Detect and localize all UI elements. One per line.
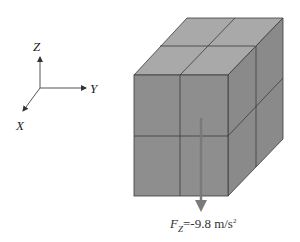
y-axis-label: Y: [90, 81, 99, 96]
cube-front-face: [134, 75, 228, 196]
coordinate-axes: Z Y X: [15, 39, 99, 133]
force-exponent: 2: [233, 217, 237, 225]
force-label: FZ=-9.8 m/s2: [170, 216, 236, 234]
z-axis-label: Z: [33, 39, 41, 54]
x-axis-label: X: [15, 118, 25, 133]
force-symbol: F: [170, 216, 178, 231]
diagram-canvas: Z Y X: [0, 0, 300, 242]
force-value: =-9.8 m/s: [183, 216, 233, 231]
force-arrow-head: [195, 200, 207, 212]
stacked-cube: [134, 18, 283, 196]
x-axis-arrow: [23, 88, 40, 111]
